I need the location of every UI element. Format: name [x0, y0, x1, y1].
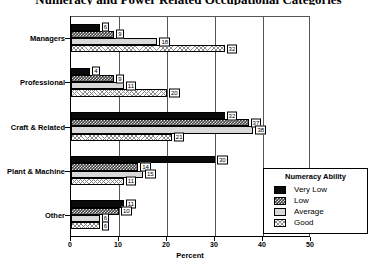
- bar-row: 18: [71, 38, 310, 45]
- bar[interactable]: [71, 82, 124, 89]
- bar-group: 691832: [71, 16, 310, 60]
- bar-value-label: 32: [227, 111, 238, 120]
- bar[interactable]: [71, 163, 138, 170]
- bar-row: 32: [71, 112, 310, 119]
- legend-item-good[interactable]: Good: [274, 217, 363, 228]
- y-axis-label-other: Other: [45, 210, 65, 219]
- y-axis-tick: [65, 82, 70, 83]
- x-axis-title: Percent: [70, 251, 310, 260]
- legend-item-label: Low: [294, 196, 309, 205]
- x-axis-tick-label: 0: [68, 241, 72, 248]
- y-axis-tick: [65, 127, 70, 128]
- bar-row: 38: [71, 126, 310, 133]
- y-axis-label-professional: Professional: [20, 78, 65, 87]
- x-axis-tick-label: 40: [258, 241, 266, 248]
- legend-item-label: Average: [294, 207, 324, 216]
- bar[interactable]: [71, 45, 225, 52]
- bar-group: 491120: [71, 60, 310, 104]
- bar[interactable]: [71, 75, 114, 82]
- bar-row: 30: [71, 156, 310, 163]
- legend-swatch-icon: [274, 186, 286, 194]
- bar-row: 11: [71, 82, 310, 89]
- legend-items: Very LowLowAverageGood: [268, 184, 363, 228]
- bar-row: 9: [71, 31, 310, 38]
- y-axis-label-plant-machine: Plant & Machine: [7, 166, 65, 175]
- legend-item-very-low[interactable]: Very Low: [274, 184, 363, 195]
- bar[interactable]: [71, 134, 172, 141]
- bar[interactable]: [71, 126, 253, 133]
- bar-value-label: 38: [255, 126, 266, 135]
- bar-value-label: 4: [92, 67, 99, 76]
- x-axis-ticks: 01020304050: [70, 237, 310, 251]
- legend-swatch-icon: [274, 219, 286, 227]
- bar[interactable]: [71, 178, 124, 185]
- bar[interactable]: [71, 24, 100, 31]
- legend: Numeracy Ability Very LowLowAverageGood: [263, 168, 368, 234]
- bar-value-label: 21: [174, 133, 185, 142]
- bar-value-label: 9: [116, 30, 123, 39]
- bar[interactable]: [71, 119, 249, 126]
- bar-value-label: 9: [116, 74, 123, 83]
- bar[interactable]: [71, 112, 225, 119]
- bar-value-label: 30: [217, 155, 228, 164]
- bar-value-label: 20: [169, 89, 180, 98]
- bar-value-label: 15: [145, 170, 156, 179]
- bar-value-label: 18: [159, 37, 170, 46]
- legend-swatch-icon: [274, 197, 286, 205]
- bar[interactable]: [71, 200, 124, 207]
- bar[interactable]: [71, 38, 157, 45]
- legend-title: Numeracy Ability: [268, 172, 363, 181]
- bar-row: 32: [71, 45, 310, 52]
- bar[interactable]: [71, 89, 167, 96]
- legend-item-average[interactable]: Average: [274, 206, 363, 217]
- bar-row: 4: [71, 68, 310, 75]
- bar-value-label: 6: [102, 23, 109, 32]
- bar-row: 37: [71, 119, 310, 126]
- legend-item-label: Good: [294, 218, 314, 227]
- bar[interactable]: [71, 68, 90, 75]
- y-axis-tick: [65, 38, 70, 39]
- bar-row: 9: [71, 75, 310, 82]
- bar-value-label: 11: [126, 81, 136, 90]
- legend-item-low[interactable]: Low: [274, 195, 363, 206]
- y-axis-label-managers: Managers: [30, 34, 65, 43]
- bar[interactable]: [71, 208, 119, 215]
- x-axis-tick-label: 50: [306, 241, 314, 248]
- bar-value-label: 10: [121, 207, 132, 216]
- y-axis-label-craft-related: Craft & Related: [11, 122, 65, 131]
- bar-value-label: 6: [102, 221, 109, 230]
- x-axis-tick-label: 30: [210, 241, 218, 248]
- y-axis-tick: [65, 215, 70, 216]
- bar-group: 32373821: [71, 104, 310, 148]
- x-axis-tick-label: 20: [162, 241, 170, 248]
- y-axis-category-labels: ManagersProfessionalCraft & RelatedPlant…: [0, 16, 70, 237]
- y-axis-tick: [65, 171, 70, 172]
- bar-row: 20: [71, 89, 310, 96]
- bar-row: 21: [71, 134, 310, 141]
- legend-item-label: Very Low: [294, 185, 327, 194]
- bar[interactable]: [71, 222, 100, 229]
- bar-value-label: 32: [227, 44, 238, 53]
- x-axis-tick-label: 10: [114, 241, 122, 248]
- chart-title: Numeracy and Power Related Occupational …: [0, 0, 377, 5]
- bar-value-label: 11: [126, 177, 136, 186]
- bar[interactable]: [71, 215, 100, 222]
- bar[interactable]: [71, 31, 114, 38]
- bar-row: 6: [71, 24, 310, 31]
- legend-swatch-icon: [274, 208, 286, 216]
